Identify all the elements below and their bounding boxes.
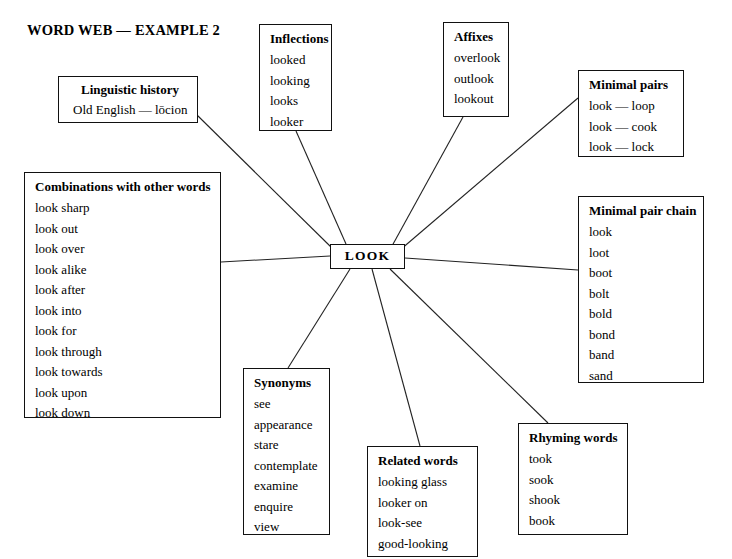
node-inflections-item: looking [270, 74, 331, 87]
node-rhyming-words[interactable]: Rhyming words took sook shook book [518, 423, 628, 535]
connector-rhyming-words [390, 269, 548, 423]
connector-synonyms [288, 269, 350, 368]
node-related-words-item: looker on [378, 496, 477, 509]
node-minimal-pair-chain-item: bond [589, 328, 703, 341]
word-web-diagram: WORD WEB — EXAMPLE 2 Linguistic history … [0, 0, 732, 559]
connector-inflections [296, 131, 346, 244]
node-affixes-item: overlook [454, 51, 508, 64]
node-combinations-item: look upon [35, 386, 220, 399]
connector-minimal-pair-chain [405, 258, 578, 270]
connector-combinations [221, 256, 330, 262]
node-synonyms-item: enquire [254, 500, 329, 513]
node-affixes-item: lookout [454, 92, 508, 105]
node-synonyms-item: examine [254, 479, 329, 492]
page-title: WORD WEB — EXAMPLE 2 [27, 22, 220, 39]
node-inflections-item: looks [270, 94, 331, 107]
node-minimal-pair-chain-item: sand [589, 369, 703, 382]
node-rhyming-words-item: shook [529, 493, 627, 506]
node-minimal-pairs[interactable]: Minimal pairs look — loop look — cook lo… [578, 70, 684, 157]
node-combinations[interactable]: Combinations with other words look sharp… [24, 172, 221, 418]
node-center-look[interactable]: LOOK [330, 244, 405, 269]
node-minimal-pairs-item: look — loop [589, 99, 683, 112]
node-affixes-item: outlook [454, 72, 508, 85]
node-minimal-pair-chain-item: bold [589, 307, 703, 320]
node-minimal-pair-chain-item: bolt [589, 287, 703, 300]
node-linguistic-history-item: Old English — lōcion [73, 103, 187, 116]
node-affixes[interactable]: Affixes overlook outlook lookout [443, 22, 509, 117]
node-minimal-pair-chain-item: look [589, 225, 703, 238]
node-synonyms[interactable]: Synonyms see appearance stare contemplat… [243, 368, 330, 535]
node-linguistic-history-title: Linguistic history [73, 82, 187, 98]
node-combinations-item: look alike [35, 263, 220, 276]
node-minimal-pair-chain-title: Minimal pair chain [589, 203, 703, 219]
connector-affixes [392, 117, 463, 246]
connector-related-words [372, 269, 420, 446]
node-minimal-pair-chain-item: boot [589, 266, 703, 279]
connector-minimal-pairs [400, 98, 578, 250]
node-combinations-item: look sharp [35, 201, 220, 214]
node-related-words-title: Related words [378, 453, 477, 469]
node-combinations-item: look towards [35, 365, 220, 378]
node-synonyms-item: stare [254, 438, 329, 451]
node-inflections-item: looked [270, 53, 331, 66]
node-inflections-item: looker [270, 115, 331, 128]
node-minimal-pair-chain-item: band [589, 348, 703, 361]
node-linguistic-history[interactable]: Linguistic history Old English — lōcion [58, 76, 198, 123]
node-synonyms-item: contemplate [254, 459, 329, 472]
node-combinations-item: look out [35, 222, 220, 235]
node-synonyms-item: view [254, 520, 329, 533]
node-affixes-title: Affixes [454, 29, 508, 45]
node-synonyms-item: see [254, 397, 329, 410]
node-minimal-pairs-item: look — lock [589, 140, 683, 153]
node-combinations-item: look down [35, 406, 220, 419]
node-center-look-label: LOOK [345, 248, 390, 265]
node-minimal-pair-chain-item: loot [589, 246, 703, 259]
node-minimal-pairs-item: look — cook [589, 120, 683, 133]
node-synonyms-item: appearance [254, 418, 329, 431]
node-combinations-title: Combinations with other words [35, 179, 220, 195]
node-combinations-item: look over [35, 242, 220, 255]
node-inflections-title: Inflections [270, 31, 331, 47]
node-combinations-item: look into [35, 304, 220, 317]
node-related-words-item: looking glass [378, 475, 477, 488]
node-minimal-pair-chain[interactable]: Minimal pair chain look loot boot bolt b… [578, 196, 704, 383]
node-combinations-item: look for [35, 324, 220, 337]
node-synonyms-title: Synonyms [254, 375, 329, 391]
node-related-words-item: look-see [378, 516, 477, 529]
node-rhyming-words-item: sook [529, 473, 627, 486]
node-rhyming-words-item: book [529, 514, 627, 527]
node-inflections[interactable]: Inflections looked looking looks looker [259, 24, 332, 131]
node-rhyming-words-title: Rhyming words [529, 430, 627, 446]
node-combinations-item: look after [35, 283, 220, 296]
node-combinations-item: look through [35, 345, 220, 358]
node-minimal-pairs-title: Minimal pairs [589, 77, 683, 93]
node-related-words[interactable]: Related words looking glass looker on lo… [367, 446, 478, 557]
node-related-words-item: good-looking [378, 537, 477, 550]
node-rhyming-words-item: took [529, 452, 627, 465]
